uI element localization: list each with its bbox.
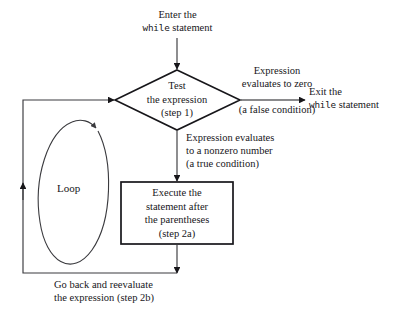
entry-label-line2-rest: statement (170, 22, 213, 33)
flowchart-diagram: Enter the while statement Test the expre… (0, 0, 402, 318)
entry-label-line1: Enter the (120, 8, 235, 21)
entry-keyword-while: while (143, 22, 170, 33)
process-label-line4: (step 2a) (121, 227, 233, 241)
exit-label-line1: Exit the (309, 85, 401, 98)
entry-label: Enter the while statement (120, 8, 235, 34)
process-label-line2: statement after (121, 200, 233, 214)
feedback-label: Go back and reevaluate the expression (s… (54, 278, 244, 304)
entry-label-line2: while statement (120, 21, 235, 34)
false-branch-line1: Expression (224, 64, 330, 77)
exit-keyword-while: while (309, 99, 336, 110)
exit-label-line2-rest: statement (336, 99, 379, 110)
true-branch-line2: to a nonzero number (186, 144, 316, 157)
loop-label: Loop (57, 182, 80, 194)
true-branch-label: Expression evaluates to a nonzero number… (186, 131, 316, 170)
exit-label: Exit the while statement (309, 85, 401, 111)
feedback-line2: the expression (step 2b) (54, 291, 244, 304)
true-branch-line3: (a true condition) (186, 157, 316, 170)
process-label-line3: the parentheses (121, 213, 233, 227)
true-branch-line1: Expression evaluates (186, 131, 316, 144)
exit-label-line2: while statement (309, 98, 401, 111)
process-label-line1: Execute the (121, 186, 233, 200)
process-label: Execute the statement after the parenthe… (121, 186, 233, 240)
feedback-line1: Go back and reevaluate (54, 278, 244, 291)
